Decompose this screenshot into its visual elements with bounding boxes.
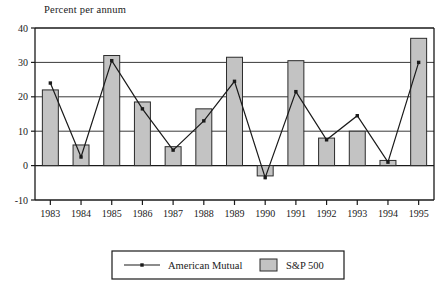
y-tick-label: -10	[15, 195, 28, 206]
x-tick-label: 1988	[194, 208, 214, 219]
y-tick-label: 40	[18, 23, 28, 34]
line-marker-1987	[171, 148, 174, 151]
bar-1995	[411, 38, 427, 165]
x-tick-label: 1991	[286, 208, 306, 219]
line-marker-1992	[325, 138, 328, 141]
legend-label-sp500: S&P 500	[286, 260, 324, 271]
x-tick-label: 1993	[347, 208, 367, 219]
legend-swatch-icon	[260, 259, 277, 271]
bar-1988	[196, 109, 212, 166]
chart-plot-area: -10010203040 198319841985198619871988198…	[0, 0, 447, 289]
x-tick-label: 1994	[378, 208, 398, 219]
chart-legend: American MutualS&P 500	[112, 251, 344, 279]
line-marker-1994	[386, 160, 389, 163]
bar-series-sp500	[42, 38, 426, 176]
x-tick-label: 1983	[40, 208, 60, 219]
y-axis-ticks: -10010203040	[15, 23, 35, 206]
y-tick-label: 20	[18, 91, 28, 102]
line-marker-1991	[294, 90, 297, 93]
x-tick-label: 1989	[225, 208, 245, 219]
x-tick-label: 1992	[317, 208, 337, 219]
bar-1983	[42, 90, 58, 166]
bar-1993	[349, 131, 365, 165]
x-tick-label: 1985	[102, 208, 122, 219]
line-marker-1989	[233, 80, 236, 83]
x-tick-label: 1995	[409, 208, 429, 219]
y-tick-label: 0	[23, 160, 28, 171]
line-marker-1988	[202, 119, 205, 122]
line-marker-1986	[141, 107, 144, 110]
bar-1986	[134, 102, 150, 166]
line-marker-1995	[417, 61, 420, 64]
y-tick-label: 10	[18, 126, 28, 137]
x-tick-label: 1987	[163, 208, 183, 219]
y-tick-label: 30	[18, 57, 28, 68]
legend-label-american-mutual: American Mutual	[168, 260, 242, 271]
legend-point-icon	[140, 263, 143, 266]
bar-1991	[288, 61, 304, 166]
x-tick-label: 1984	[71, 208, 91, 219]
x-axis-ticks: 1983198419851986198719881989199019911992…	[40, 200, 428, 219]
line-marker-1984	[79, 155, 82, 158]
chart-root: Percent per annum -10010203040 198319841…	[0, 0, 447, 289]
bar-1992	[319, 138, 335, 166]
line-marker-1983	[49, 81, 52, 84]
bar-1990	[257, 166, 273, 176]
bar-1989	[227, 57, 243, 165]
x-tick-label: 1990	[255, 208, 275, 219]
x-tick-label: 1986	[132, 208, 152, 219]
line-marker-1990	[263, 176, 266, 179]
line-marker-1993	[356, 114, 359, 117]
line-marker-1985	[110, 59, 113, 62]
bar-1985	[104, 56, 120, 166]
